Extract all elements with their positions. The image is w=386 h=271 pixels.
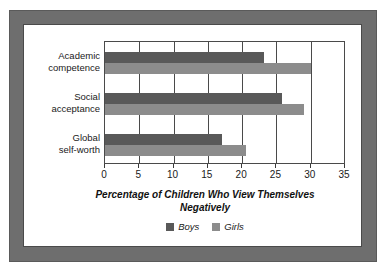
legend-item-boys: Boys <box>166 221 199 232</box>
x-axis-tick <box>344 164 345 168</box>
x-axis-tick <box>207 164 208 168</box>
bar-group <box>105 52 344 74</box>
x-axis-tick-label: 5 <box>126 169 150 180</box>
y-axis-label-line: competence <box>24 62 100 74</box>
x-axis-tick-label: 30 <box>298 169 322 180</box>
bar-group <box>105 93 344 115</box>
x-axis-tick <box>104 164 105 168</box>
bar-boys <box>105 134 222 145</box>
bar-boys <box>105 52 264 63</box>
y-axis-label-line: Social <box>24 91 100 103</box>
legend-label: Boys <box>178 221 199 232</box>
x-axis-tick-label: 10 <box>161 169 185 180</box>
legend-label: Girls <box>224 221 244 232</box>
x-axis-tick-label: 15 <box>195 169 219 180</box>
x-axis-tick-label: 0 <box>92 169 116 180</box>
x-axis-tick <box>173 164 174 168</box>
x-axis: 05101520253035 <box>104 164 345 186</box>
y-axis-label-line: self-worth <box>24 144 100 156</box>
x-axis-tick-label: 25 <box>263 169 287 180</box>
figure-inner-panel: AcademiccompetenceSocialacceptanceGlobal… <box>23 24 362 247</box>
x-axis-title-line-1: Percentage of Children Who View Themselv… <box>60 188 350 201</box>
x-axis-tick-label: 35 <box>332 169 356 180</box>
legend-item-girls: Girls <box>212 221 244 232</box>
figure-frame: AcademiccompetenceSocialacceptanceGlobal… <box>9 10 377 262</box>
y-axis-label-line: acceptance <box>24 103 100 115</box>
x-axis-tick-label: 20 <box>229 169 253 180</box>
legend-swatch-icon <box>212 223 220 231</box>
x-axis-tick <box>275 164 276 168</box>
x-axis-title: Percentage of Children Who View Themselv… <box>60 188 350 214</box>
legend-swatch-icon <box>166 223 174 231</box>
x-axis-title-line-2: Negatively <box>60 201 350 214</box>
bar-boys <box>105 93 282 104</box>
y-axis-label: Socialacceptance <box>24 91 100 114</box>
bar-girls <box>105 145 246 156</box>
y-axis-label: Globalself-worth <box>24 132 100 155</box>
x-axis-tick <box>310 164 311 168</box>
bar-group <box>105 134 344 156</box>
bar-girls <box>105 63 311 74</box>
chart-legend: BoysGirls <box>60 221 350 232</box>
x-axis-tick <box>241 164 242 168</box>
bar-chart: AcademiccompetenceSocialacceptanceGlobal… <box>24 25 361 246</box>
bar-girls <box>105 104 304 115</box>
x-axis-tick <box>138 164 139 168</box>
y-axis-label-line: Global <box>24 132 100 144</box>
plot-area <box>104 41 345 164</box>
y-axis-label: Academiccompetence <box>24 50 100 73</box>
y-axis-label-line: Academic <box>24 50 100 62</box>
y-axis-category-labels: AcademiccompetenceSocialacceptanceGlobal… <box>24 41 100 164</box>
